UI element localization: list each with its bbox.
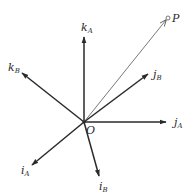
label-k-a: kA bbox=[81, 21, 93, 35]
coordinate-frames-diagram: kA kB jB jA iA iB O P bbox=[0, 0, 190, 196]
point-p-marker bbox=[166, 16, 170, 20]
label-point-p: P bbox=[171, 12, 180, 25]
label-k-b: kB bbox=[8, 61, 20, 75]
axis-k-b bbox=[22, 73, 84, 122]
axis-i-a bbox=[32, 122, 84, 165]
label-j-a: jA bbox=[171, 116, 182, 130]
label-i-b: iB bbox=[99, 180, 108, 194]
label-origin: O bbox=[86, 124, 95, 137]
label-i-a: iA bbox=[21, 164, 30, 178]
label-j-b: jB bbox=[150, 68, 162, 82]
axis-j-b bbox=[84, 74, 148, 122]
